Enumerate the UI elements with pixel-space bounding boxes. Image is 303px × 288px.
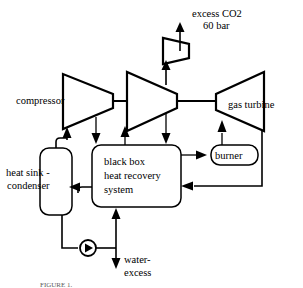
pipe-line: [78, 187, 92, 193]
co2-compressor-body: [163, 38, 189, 64]
black-box-label-line1: black box: [104, 156, 146, 167]
excess-co2-label: excess CO2: [192, 8, 242, 19]
water-excess-label-line2: excess: [124, 267, 151, 278]
compressor-label: compressor: [16, 95, 65, 106]
arrowhead-up-icon: [112, 208, 121, 219]
diagram-canvas: excess CO2 60 bar compressor gas turbine…: [0, 0, 303, 288]
arrowhead-right-icon: [196, 151, 207, 160]
black-box-label-line3: system: [104, 184, 133, 195]
pipe-compressor-to-blackbox: [92, 117, 101, 144]
pipe-burner-to-gasturbine: [218, 120, 227, 145]
arrowhead-left-icon: [181, 182, 193, 191]
arrowhead-up-icon: [218, 120, 227, 132]
water-excess-label-line1: water-: [124, 254, 151, 265]
water-pump: [80, 240, 96, 256]
second-compressor-body: [127, 72, 177, 131]
heat-sink-label-line2: condenser: [7, 180, 50, 191]
arrowhead-down-icon: [162, 133, 171, 144]
arrowhead-down-icon: [112, 258, 121, 269]
arrowhead-up-icon: [176, 22, 185, 32]
process-flow-diagram: excess CO2 60 bar compressor gas turbine…: [0, 0, 303, 288]
arrowhead-down-icon: [92, 133, 101, 144]
pipe-water-to-blackbox: [112, 208, 121, 248]
main-compressor-body: [63, 74, 113, 129]
pipe-second-compressor-to-blackbox: [162, 114, 171, 144]
pressure-label: 60 bar: [203, 20, 230, 31]
pipe-blackbox-to-burner: [181, 151, 207, 160]
black-box-label-line2: heat recovery: [104, 170, 162, 181]
pipe-heatsink-to-pump: [62, 215, 78, 248]
co2-compressor: [163, 38, 189, 64]
pipe-line: [62, 215, 78, 248]
burner-label: burner: [215, 150, 243, 161]
second-compressor: [127, 72, 177, 131]
heat-sink-label-line1: heat sink -: [6, 167, 50, 178]
gas-turbine-label: gas turbine: [228, 99, 275, 110]
pipe-heatsink-to-compressor: [56, 127, 72, 148]
figure-caption: FIGURE 1.: [40, 281, 73, 288]
pipe-water-excess-outlet: [112, 248, 121, 269]
main-compressor: [63, 74, 113, 129]
pipe-line: [56, 138, 67, 148]
